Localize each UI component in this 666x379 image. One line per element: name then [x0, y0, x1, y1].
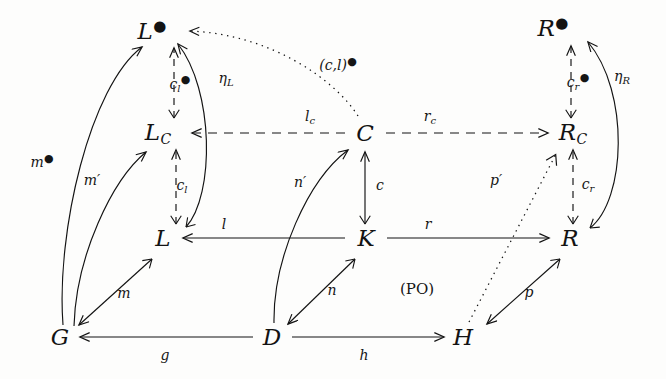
edge-L-to-Ldot — [178, 44, 206, 227]
node-base: R — [538, 15, 555, 41]
node-L: L — [155, 227, 170, 250]
label-subscript: c — [431, 115, 437, 126]
edge-label-n_prime: n′ — [294, 175, 306, 189]
node-C: C — [356, 122, 374, 145]
label-base: h — [359, 347, 368, 363]
label-base: c — [582, 176, 590, 192]
node-D: D — [263, 326, 281, 349]
node-dot-superscript: ● — [555, 14, 568, 32]
edge-D-to-C — [274, 150, 348, 323]
edge-label-m_prime: m′ — [84, 173, 100, 187]
label-subscript: r — [575, 81, 580, 92]
edge-label-p_prime: p′ — [490, 173, 502, 187]
label-base: c — [376, 177, 384, 193]
node-RC: RC — [559, 121, 588, 146]
edge-label-h: h — [359, 348, 368, 362]
label-subscript: c — [309, 115, 315, 126]
edge-K-to-D — [288, 259, 355, 324]
label-dot-superscript: ● — [44, 152, 54, 165]
edge-label-c: c — [376, 178, 384, 192]
label-subscript: L — [227, 77, 234, 88]
label-base: n — [294, 174, 303, 190]
node-base: R — [561, 225, 578, 251]
label-dot-superscript: ● — [347, 55, 357, 68]
edge-label-l: l — [222, 217, 226, 231]
node-base: R — [559, 119, 576, 145]
node-base: H — [453, 324, 473, 350]
edge-label-cl_dot: cl● — [170, 74, 191, 94]
label-base: r — [425, 216, 432, 232]
node-base: L — [138, 18, 153, 44]
label-base: m — [84, 172, 97, 188]
label-subscript: l — [184, 184, 187, 195]
node-base: L — [145, 119, 160, 145]
edge-label-cr_low: cr — [582, 177, 595, 194]
node-base: D — [263, 324, 281, 350]
node-H: H — [453, 326, 473, 349]
label-prime: ′ — [97, 172, 100, 188]
label-base: l — [222, 216, 226, 232]
node-base: K — [357, 225, 374, 251]
label-base: c — [170, 76, 178, 92]
label-base: p — [490, 172, 499, 188]
label-base: r — [424, 108, 431, 124]
node-G: G — [51, 326, 69, 349]
label-base: c — [176, 177, 184, 193]
node-base: C — [356, 120, 374, 146]
node-LC: LC — [145, 121, 172, 146]
edge-label-PO: (PO) — [400, 282, 434, 297]
label-dot-superscript: ● — [580, 71, 590, 84]
label-base: g — [161, 347, 170, 363]
label-base: m — [117, 285, 130, 301]
edge-label-p: p — [525, 285, 534, 299]
edge-G-to-Ldot — [62, 47, 142, 325]
label-subscript: r — [590, 183, 595, 194]
node-dot-superscript: ● — [153, 17, 166, 35]
edge-label-cl_pair: (c,l)● — [319, 56, 357, 73]
edge-label-r: r — [425, 217, 432, 231]
node-subscript: C — [161, 130, 172, 146]
label-base: c — [567, 74, 575, 90]
edge-label-g: g — [161, 348, 170, 362]
node-base: L — [155, 225, 170, 251]
edge-label-eta_R: ηR — [614, 69, 630, 86]
edge-label-r_c: rc — [424, 109, 436, 126]
node-Ldot: L● — [138, 19, 167, 43]
edge-R-to-H — [487, 259, 560, 324]
label-base: (PO) — [400, 280, 434, 298]
label-base: m — [30, 154, 43, 170]
edge-label-n: n — [327, 283, 336, 297]
edge-label-l_c: lc — [305, 109, 315, 126]
edge-label-m_dot: m● — [30, 153, 53, 170]
node-Rdot: R● — [538, 16, 569, 40]
label-base: (c,l) — [319, 57, 347, 73]
label-base: p — [525, 284, 534, 300]
edge-C-to-Ldot — [190, 31, 358, 116]
node-subscript: C — [577, 130, 588, 146]
edge-label-cr_dot: cr● — [567, 72, 590, 92]
edge-label-cl_low: cl — [176, 178, 187, 195]
edge-label-eta_L: ηL — [218, 71, 233, 88]
edge-L-to-G — [79, 259, 152, 325]
node-base: G — [51, 324, 69, 350]
label-prime: ′ — [499, 172, 502, 188]
edge-label-m: m — [117, 286, 130, 300]
label-subscript: R — [622, 75, 630, 86]
node-K: K — [357, 227, 374, 250]
diagram-canvas: L●R●LCCRCLKRGDH cl●ηL(c,l)●cr●ηRlcrcm●m′… — [0, 0, 666, 379]
label-prime: ′ — [303, 174, 306, 190]
label-dot-superscript: ● — [181, 73, 191, 86]
node-R: R — [561, 227, 578, 250]
label-base: n — [327, 282, 336, 298]
